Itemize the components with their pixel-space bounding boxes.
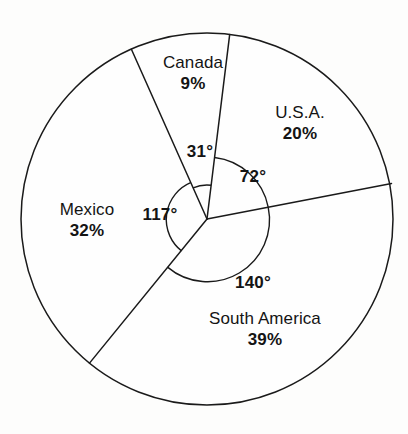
angle-label-31: 31°	[187, 142, 213, 163]
slice-label-canada-name: Canada	[163, 53, 223, 74]
slice-label-south-america: South America 39%	[209, 309, 321, 350]
slice-label-mexico-percent: 32%	[60, 221, 114, 242]
slice-label-usa-name: U.S.A.	[275, 103, 325, 124]
angle-label-140: 140°	[235, 273, 271, 294]
slice-label-usa-percent: 20%	[275, 124, 325, 145]
slice-label-south-america-name: South America	[209, 309, 321, 330]
angle-label-72: 72°	[240, 167, 266, 188]
slice-label-south-america-percent: 39%	[209, 330, 321, 351]
slice-label-mexico-name: Mexico	[60, 200, 114, 221]
slice-label-mexico: Mexico 32%	[60, 200, 114, 241]
slice-label-canada: Canada 9%	[163, 53, 223, 94]
angle-label-117: 117°	[142, 205, 177, 226]
pie-chart: Canada 9% U.S.A. 20% Mexico 32% South Am…	[0, 0, 408, 434]
slice-label-usa: U.S.A. 20%	[275, 103, 325, 144]
slice-label-canada-percent: 9%	[163, 74, 223, 95]
